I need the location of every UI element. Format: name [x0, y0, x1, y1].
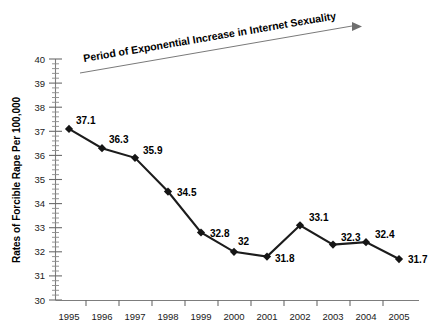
- data-point-label: 31.7: [408, 254, 428, 265]
- y-axis-title: Rates of Forcible Rape Per 100,000: [11, 96, 22, 263]
- x-tick-label: 2002: [289, 311, 310, 322]
- x-tick-label: 1999: [190, 311, 211, 322]
- y-tick-label: 34: [34, 198, 45, 209]
- data-point-marker: [362, 238, 370, 246]
- chart-page: Period of Exponential Increase in Intern…: [0, 0, 432, 335]
- data-point-label: 37.1: [76, 115, 96, 126]
- data-point-label: 33.1: [309, 212, 329, 223]
- data-point-label: 32: [238, 236, 250, 247]
- period-annotation: Period of Exponential Increase in Intern…: [80, 9, 362, 73]
- annotation-arrowhead-icon: [352, 22, 362, 31]
- y-tick-label: 35: [34, 174, 45, 185]
- x-tick-label: 1997: [124, 311, 145, 322]
- data-point-label: 32.4: [375, 229, 395, 240]
- data-point-label: 34.5: [177, 187, 197, 198]
- y-tick-label: 33: [34, 222, 45, 233]
- x-tick-label: 1996: [91, 311, 112, 322]
- annotation-label: Period of Exponential Increase in Intern…: [82, 9, 337, 64]
- x-tick-label: 1998: [157, 311, 178, 322]
- y-tick-label: 32: [34, 246, 45, 257]
- y-tick-label: 39: [34, 78, 45, 89]
- x-tick-label: 2003: [322, 311, 343, 322]
- y-tick-label: 38: [34, 102, 45, 113]
- data-point-marker: [395, 255, 403, 263]
- y-tick-label: 36: [34, 150, 45, 161]
- x-tick-label: 2005: [388, 311, 409, 322]
- x-tick-label: 2000: [223, 311, 244, 322]
- y-tick-label: 30: [34, 295, 45, 306]
- data-point-label: 35.9: [143, 145, 163, 156]
- series-data-labels: 37.136.335.934.532.83231.833.132.332.431…: [76, 115, 428, 265]
- x-axis-tick-labels: 1995 1996 1997 1998 1999 2000 2001 2002 …: [58, 311, 409, 322]
- x-tick-label: 1995: [58, 311, 79, 322]
- data-point-label: 31.8: [275, 253, 295, 264]
- line-chart: Period of Exponential Increase in Intern…: [0, 0, 432, 335]
- x-tick-label: 2001: [256, 311, 277, 322]
- data-point-label: 36.3: [109, 134, 129, 145]
- x-tick-label: 2004: [355, 311, 376, 322]
- y-tick-label: 37: [34, 126, 45, 137]
- y-tick-label: 40: [34, 54, 45, 65]
- data-point-label: 32.8: [210, 228, 230, 239]
- y-tick-label: 31: [34, 270, 45, 281]
- data-point-label: 32.3: [341, 232, 361, 243]
- y-axis-tick-labels: 40 39 38 37 36 35 34 33 32 31 30: [34, 54, 45, 306]
